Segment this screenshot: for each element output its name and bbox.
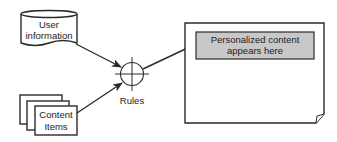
personalization-diagram: User information Content Items Rules Per… — [0, 0, 337, 142]
personalized-content-label-line1: Personalized content — [211, 34, 300, 45]
content-items-node: Content Items — [20, 95, 77, 135]
cylinder-top — [21, 11, 77, 18]
arrow-user-to-rules — [76, 44, 121, 67]
rules-label: Rules — [120, 95, 145, 106]
arrow-content-to-rules — [77, 83, 122, 113]
personalized-content-label-line2: appears here — [227, 45, 283, 56]
user-information-node: User information — [21, 11, 77, 46]
user-information-label-line1: User — [39, 19, 59, 30]
content-items-label-line1: Content — [39, 109, 73, 120]
content-items-label-line2: Items — [44, 121, 67, 132]
rules-node: Rules — [115, 57, 149, 106]
user-information-label-line2: information — [26, 30, 73, 41]
output-page-node: Personalized content appears here — [185, 23, 324, 123]
